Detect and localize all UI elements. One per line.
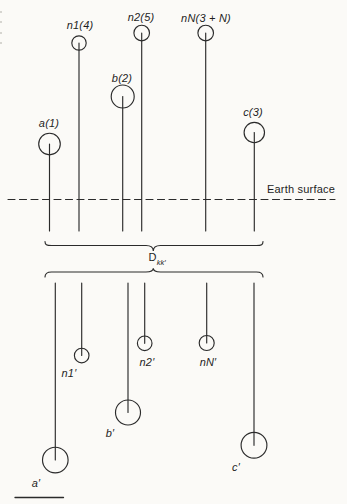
lower-group-brace bbox=[45, 268, 263, 277]
electrode-n1-label: n1(4) bbox=[67, 20, 94, 31]
electrode-c-label: c(3) bbox=[243, 107, 263, 118]
scan-artifact-marks bbox=[0, 11, 2, 44]
electrode-n1-prime-label: n1′ bbox=[62, 368, 77, 379]
upper-group-brace bbox=[45, 242, 263, 252]
separation-label-subscript: kk′ bbox=[157, 258, 166, 267]
electrode-nN-label: nN(3 + N) bbox=[181, 13, 231, 24]
separation-label-base: D bbox=[148, 251, 156, 263]
separation-label: Dkk′ bbox=[148, 252, 165, 266]
earth-surface-label: Earth surface bbox=[267, 184, 335, 195]
electrode-a-prime-label: a′ bbox=[32, 478, 41, 489]
electrode-nN-prime-label: nN′ bbox=[200, 357, 217, 368]
electrode-n2-label: n2(5) bbox=[128, 12, 155, 23]
electrode-b-label: b(2) bbox=[112, 73, 132, 84]
figure-canvas: a(1) n1(4) b(2) n2(5) nN(3 + N) c(3) Ear… bbox=[0, 0, 347, 504]
electrode-b-prime-label: b′ bbox=[106, 428, 115, 439]
electrode-a-label: a(1) bbox=[39, 118, 59, 129]
electrode-n2-prime-label: n2′ bbox=[140, 357, 155, 368]
electrode-diagram bbox=[0, 0, 347, 504]
electrode-c-prime-label: c′ bbox=[232, 462, 240, 473]
